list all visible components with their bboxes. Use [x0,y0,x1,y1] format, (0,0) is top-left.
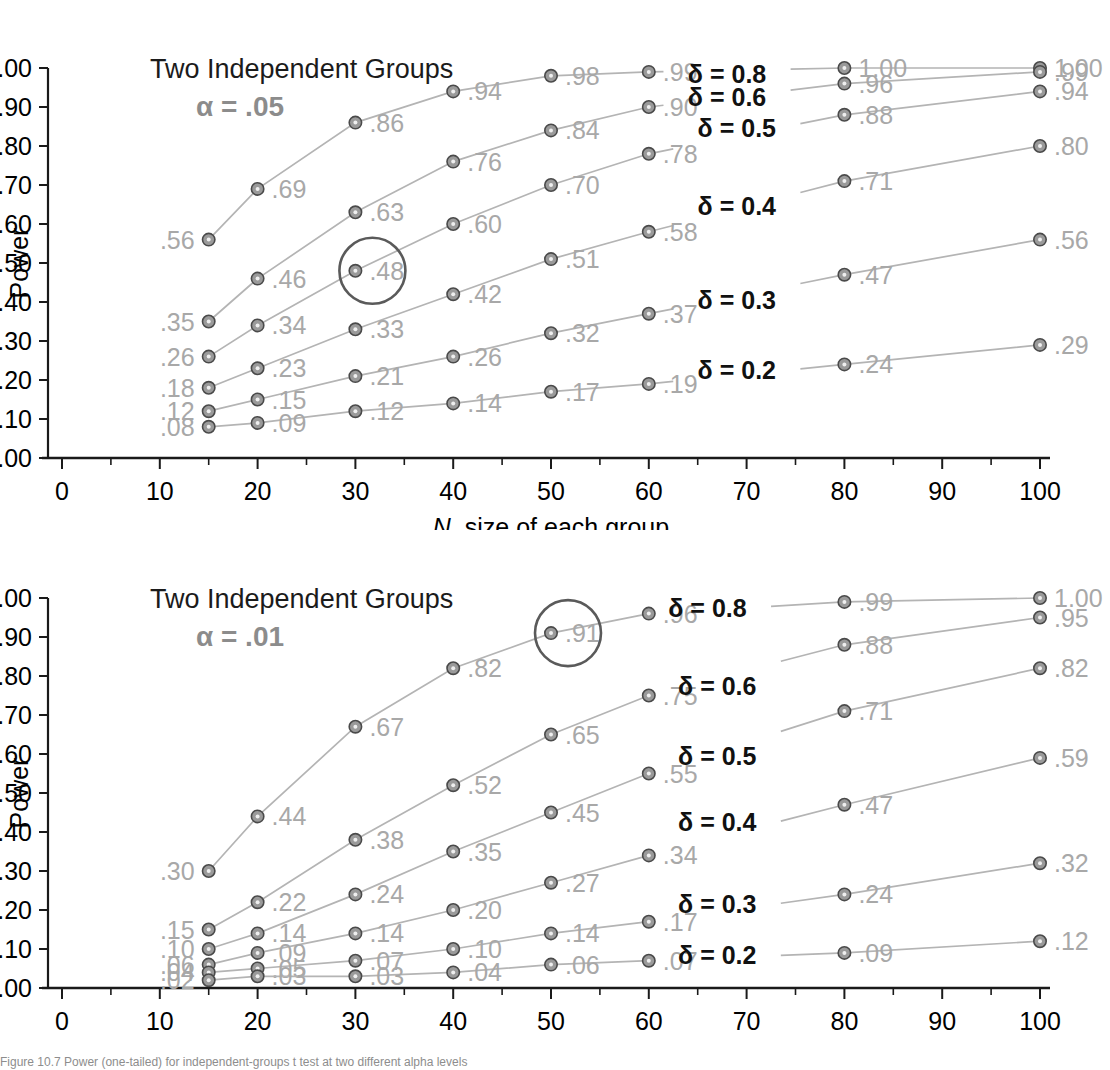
data-point-label: .99 [858,588,893,616]
series-line-right [791,72,1040,90]
data-point-label: .71 [858,167,893,195]
data-point-hole [1038,144,1042,148]
data-point-hole [451,292,455,296]
delta-legend-label: δ = 0.8 [668,594,747,622]
y-tick-label: .00 [0,974,32,1002]
x-tick-label: 60 [635,1007,663,1035]
data-point-hole [256,277,260,281]
x-tick-label: 100 [1019,477,1061,505]
data-point-hole [207,386,211,390]
data-point-label: .46 [272,265,307,293]
y-tick-label: .70 [0,701,32,729]
data-point-hole [549,881,553,885]
data-point-hole [842,643,846,647]
data-point-hole [1038,939,1042,943]
delta-legend-label: δ = 0.3 [698,286,776,314]
data-point-hole [451,947,455,951]
x-axis-title-n: N [433,513,452,530]
y-tick-label: .70 [0,171,32,199]
data-point-label: .47 [858,791,893,819]
data-point-hole [549,931,553,935]
data-point-label: .35 [467,838,502,866]
data-point-label: .76 [467,148,502,176]
series-group: .56.69.86.94.98.991.001.00δ = 0.8.35.46.… [160,54,1103,441]
data-point-label: .34 [272,311,307,339]
data-point-hole [1038,616,1042,620]
data-point-label: .08 [160,413,195,441]
data-point-label: .60 [467,210,502,238]
data-point-hole [451,89,455,93]
data-point-hole [207,238,211,242]
y-tick-label: .00 [0,444,32,472]
series-line-right [800,240,1040,284]
data-point-hole [1038,70,1042,74]
data-point-hole [256,323,260,327]
x-axis-title-rest: , size of each group [451,513,669,530]
data-point-hole [451,355,455,359]
data-point-label: .84 [565,116,600,144]
y-tick-label: .20 [0,366,32,394]
data-point-hole [256,931,260,935]
data-point-hole [647,230,651,234]
data-point-hole [647,70,651,74]
data-point-hole [256,900,260,904]
chart-canvas-top: 1.00.90.80.70.60.50.40.30.20.10.00010203… [0,0,1110,530]
data-point-label: .44 [272,802,307,830]
data-point-hole [1038,238,1042,242]
series-2: .15.22.38.52.65.75.88.95δ = 0.6 [160,604,1089,944]
data-point-label: .59 [1054,744,1089,772]
y-axis-title: Power [5,758,33,829]
data-point-hole [451,666,455,670]
data-point-hole [549,811,553,815]
data-point-label: .65 [565,721,600,749]
data-point-label: .12 [1054,927,1089,955]
data-point-hole [353,210,357,214]
x-tick-label: 70 [733,477,761,505]
data-point-hole [647,382,651,386]
data-point-label: .52 [467,771,502,799]
data-point-label: .80 [1054,132,1089,160]
series-line-right [781,758,1040,821]
data-point-hole [549,74,553,78]
data-point-hole [451,783,455,787]
y-tick-label: 1.00 [0,584,32,612]
data-point-hole [842,600,846,604]
data-point-label: .03 [369,962,404,990]
data-point-hole [353,892,357,896]
data-point-hole [647,152,651,156]
x-tick-label: 30 [341,477,369,505]
y-tick-label: .10 [0,935,32,963]
data-point-label: .09 [858,939,893,967]
y-tick-label: .80 [0,662,32,690]
data-point-hole [256,951,260,955]
data-point-label: .69 [272,175,307,203]
data-point-hole [842,82,846,86]
data-point-hole [549,128,553,132]
data-point-label: .34 [663,841,698,869]
x-tick-label: 50 [537,477,565,505]
x-tick-label: 10 [146,1007,174,1035]
x-tick-label: 70 [733,1007,761,1035]
data-point-hole [842,709,846,713]
data-point-hole [207,869,211,873]
data-point-hole [207,320,211,324]
data-point-hole [647,772,651,776]
data-point-hole [207,409,211,413]
data-point-label: .88 [858,101,893,129]
delta-legend-label: δ = 0.2 [698,356,776,384]
data-point-label: .88 [858,631,893,659]
data-point-hole [647,920,651,924]
series-group: .30.44.67.82.91.96.991.00δ = 0.8.15.22.3… [160,584,1103,994]
x-tick-label: 10 [146,477,174,505]
data-point-label: .98 [565,62,600,90]
y-tick-label: .30 [0,857,32,885]
series-line-right [800,345,1040,369]
data-point-hole [207,425,211,429]
data-point-label: .29 [1054,331,1089,359]
x-tick-label: 20 [244,477,272,505]
data-point-label: .82 [1054,654,1089,682]
data-point-label: .47 [858,261,893,289]
alpha-label: α = .05 [196,91,284,122]
data-point-label: .48 [369,257,404,285]
series-line-right [781,668,1040,731]
